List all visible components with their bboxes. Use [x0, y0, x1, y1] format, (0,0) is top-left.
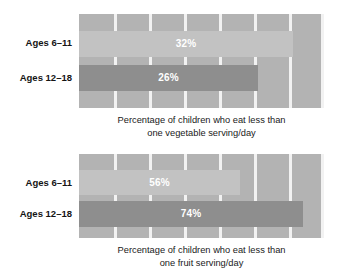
category-label-ages-6-11: Ages 6–11 [0, 177, 72, 188]
gridline [321, 154, 324, 238]
category-label-ages-12-18: Ages 12–18 [0, 208, 72, 219]
caption-line-1: Percentage of children who eat less than [79, 244, 324, 257]
gridline [184, 14, 187, 108]
category-label-ages-6-11: Ages 6–11 [0, 37, 72, 48]
figure-fruit-chart: Ages 6–11 Ages 12–18 56% 74% Percentage … [0, 139, 340, 278]
chart-page: { "chart_data": [ { "type": "bar", "orie… [0, 0, 340, 278]
bar-vegetable-ages-12-18: 26% [79, 65, 258, 91]
gridline [321, 14, 324, 108]
bar-fruit-ages-6-11: 56% [79, 170, 240, 195]
gridline [149, 14, 152, 108]
gridline [114, 14, 117, 108]
bar-value-label: 32% [176, 39, 197, 49]
caption-fruit: Percentage of children who eat less than… [79, 244, 324, 269]
gridlines-vegetable [79, 14, 324, 108]
caption-line-1: Percentage of children who eat less than [79, 114, 324, 127]
gridline [289, 14, 292, 108]
bar-vegetable-ages-6-11: 32% [79, 31, 293, 57]
caption-vegetable: Percentage of children who eat less than… [79, 114, 324, 139]
plot-area-vegetable: 32% 26% [79, 14, 324, 108]
category-label-ages-12-18: Ages 12–18 [0, 72, 72, 83]
gridline [254, 14, 257, 108]
caption-line-2: one fruit serving/day [79, 257, 324, 270]
caption-line-2: one vegetable serving/day [79, 127, 324, 140]
gridline [219, 14, 222, 108]
bar-value-label: 56% [149, 178, 170, 188]
figure-vegetable-chart: Ages 6–11 Ages 12–18 32% 26% Percentage … [0, 0, 340, 139]
bar-value-label: 74% [181, 209, 202, 219]
bar-value-label: 26% [158, 73, 179, 83]
bar-fruit-ages-12-18: 74% [79, 201, 303, 227]
plot-area-fruit: 56% 74% [79, 154, 324, 238]
